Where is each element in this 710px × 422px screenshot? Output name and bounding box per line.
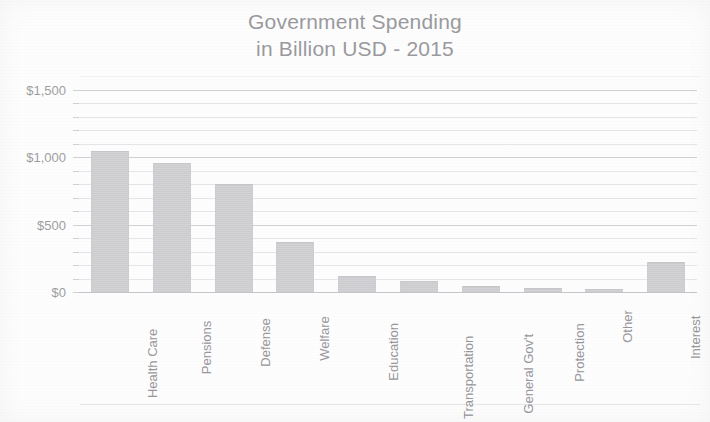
y-axis-label: $1,000 xyxy=(26,150,66,165)
x-axis-label-text: Protection xyxy=(572,323,587,382)
x-axis-label-text: Defense xyxy=(258,318,273,366)
x-axis-label: Welfare xyxy=(318,316,333,361)
bar xyxy=(338,276,376,292)
y-axis-label: $0 xyxy=(52,285,66,300)
x-axis-label-text: General Gov't xyxy=(521,334,536,414)
bar xyxy=(647,262,685,292)
bar xyxy=(153,163,191,292)
y-axis-label: $1,500 xyxy=(26,83,66,98)
x-axis-label: General Gov't xyxy=(521,334,536,414)
x-axis-label-text: Other xyxy=(621,310,636,343)
x-axis-label-text: Interest xyxy=(688,316,703,359)
x-axis: Health CarePensionsDefenseWelfareEducati… xyxy=(79,294,697,414)
x-axis-label: Other xyxy=(621,310,636,343)
x-axis-label-text: Health Care xyxy=(145,329,160,398)
x-axis-label: Interest xyxy=(688,316,703,359)
bar xyxy=(585,289,623,292)
chart-title: Government Spending in Billion USD - 201… xyxy=(0,8,710,62)
bar-series xyxy=(79,90,697,292)
bar xyxy=(400,281,438,292)
bar xyxy=(462,286,500,292)
y-axis: $0$500$1,000$1,500 xyxy=(0,90,72,292)
bar xyxy=(215,184,253,292)
chart-title-line-1: Government Spending xyxy=(0,8,710,35)
scan-smudge xyxy=(80,76,700,77)
chart-title-line-2: in Billion USD - 2015 xyxy=(0,35,710,62)
bar xyxy=(524,288,562,292)
axis-baseline xyxy=(79,292,697,293)
y-axis-tick xyxy=(73,292,79,293)
x-axis-label-text: Education xyxy=(386,323,401,381)
x-axis-label: Transportation xyxy=(461,336,476,419)
chart-figure: Government Spending in Billion USD - 201… xyxy=(0,0,710,422)
x-axis-label-text: Welfare xyxy=(318,316,333,361)
bar xyxy=(91,151,129,292)
y-axis-label: $500 xyxy=(37,217,66,232)
x-axis-label: Pensions xyxy=(198,321,213,374)
x-axis-label: Health Care xyxy=(145,329,160,398)
x-axis-label: Protection xyxy=(572,323,587,382)
x-axis-label: Education xyxy=(386,323,401,381)
x-axis-label: Defense xyxy=(258,318,273,366)
x-axis-label-text: Transportation xyxy=(461,336,476,419)
bar xyxy=(276,242,314,292)
x-axis-label-text: Pensions xyxy=(198,321,213,374)
